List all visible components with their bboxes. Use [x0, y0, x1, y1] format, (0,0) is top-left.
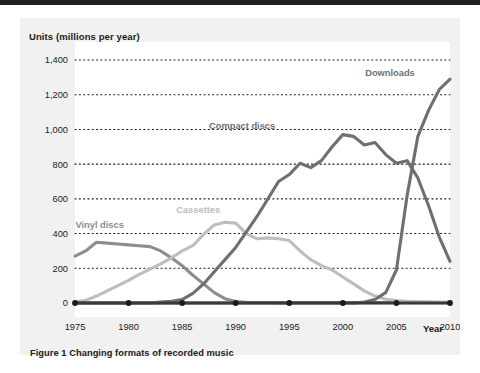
svg-text:1980: 1980 — [118, 322, 139, 332]
svg-text:2000: 2000 — [333, 322, 354, 332]
svg-text:200: 200 — [52, 264, 68, 274]
svg-text:1,400: 1,400 — [45, 55, 68, 65]
svg-text:Cassettes: Cassettes — [176, 205, 220, 215]
svg-text:1985: 1985 — [172, 322, 193, 332]
svg-text:1990: 1990 — [225, 322, 246, 332]
svg-text:Downloads: Downloads — [365, 68, 415, 78]
figure-panel: Units (millions per year) 02004006008001… — [20, 18, 460, 355]
svg-text:1,000: 1,000 — [45, 125, 68, 135]
x-axis-tick-labels: 19751980198519901995200020052010 — [65, 322, 460, 332]
svg-text:2005: 2005 — [386, 322, 407, 332]
y-axis-tick-labels: 02004006008001,0001,2001,400 — [45, 55, 68, 308]
figure-caption: Figure 1 Changing formats of recorded mu… — [30, 348, 234, 358]
svg-text:0: 0 — [63, 298, 68, 308]
svg-text:800: 800 — [52, 160, 68, 170]
chart-plot-area: Units (millions per year) 02004006008001… — [20, 18, 460, 355]
x-axis-title: Year — [423, 323, 443, 334]
svg-text:Compact discs: Compact discs — [209, 121, 275, 131]
figure-root: Units (millions per year) 02004006008001… — [0, 0, 480, 373]
svg-text:1,200: 1,200 — [45, 90, 68, 100]
top-rule-divider — [0, 0, 480, 5]
svg-text:600: 600 — [52, 194, 68, 204]
svg-text:Vinyl discs: Vinyl discs — [75, 220, 123, 230]
svg-text:1995: 1995 — [279, 322, 300, 332]
svg-text:1975: 1975 — [65, 322, 86, 332]
line-chart-svg: 02004006008001,0001,2001,400 19751980198… — [20, 18, 460, 355]
svg-text:400: 400 — [52, 229, 68, 239]
